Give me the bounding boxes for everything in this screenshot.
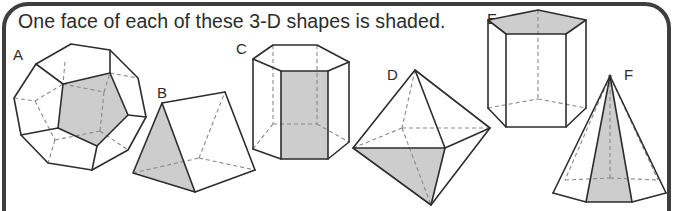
shape-c-hexagonal-prism (253, 45, 349, 159)
shape-d-octahedron (353, 70, 490, 205)
shape-b-triangular-prism (133, 92, 255, 192)
shapes-figure (0, 0, 677, 211)
shape-a-dodecahedron (14, 44, 146, 170)
shape-e-pentagonal-prism (488, 10, 586, 127)
shape-f-hexagonal-pyramid (553, 74, 666, 202)
